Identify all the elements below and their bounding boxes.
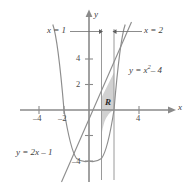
label-parabola-equation: y = x2– 4 [129, 64, 162, 75]
y-axis-label: y [94, 10, 98, 19]
x-tick-label--2: –2 [58, 114, 67, 123]
x-axis-label: x [178, 103, 182, 112]
label-x-equals-1: x = 1 [47, 26, 66, 35]
y-axis-arrow [86, 10, 93, 18]
graph-canvas [0, 0, 194, 192]
label-x-equals-2: x = 2 [144, 26, 163, 35]
figure-container: x y –4 –2 4 4 2 –4 x = 1 x = 2 y = x2– 4… [0, 0, 194, 192]
label-line-equation: y = 2x – 1 [16, 148, 53, 157]
x-tick-label-4: 4 [136, 114, 140, 123]
y-tick-label--4: –4 [72, 157, 81, 166]
x-axis-arrow [168, 107, 176, 114]
label-parabola-base: y = x [129, 65, 148, 75]
label-parabola-tail: – 4 [151, 65, 162, 75]
x-tick-label--4: –4 [33, 114, 42, 123]
y-tick-label-2: 2 [76, 80, 80, 89]
region-label-r: R [105, 98, 111, 107]
y-tick-label-4: 4 [76, 54, 80, 63]
